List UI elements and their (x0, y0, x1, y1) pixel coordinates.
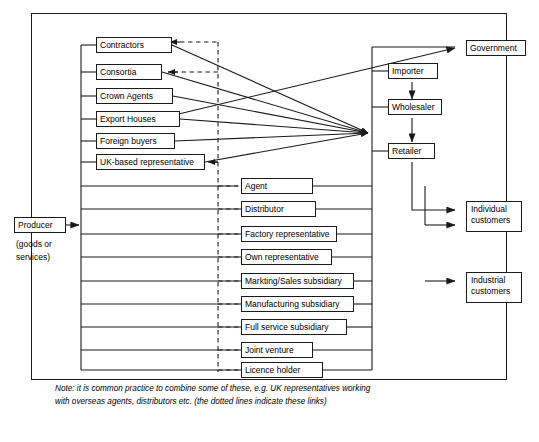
node-joint-venture-label: Joint venture (245, 346, 294, 355)
diagram-page: Producer (goods or services) Contractors… (0, 0, 539, 442)
node-crown-agents-label: Crown Agents (100, 92, 153, 101)
node-marketing-sales-subsidiary[interactable]: Markting/Sales subsidiary (241, 273, 354, 289)
node-individual-customers-line2: customers (471, 215, 517, 226)
node-distributor[interactable]: Distributor (241, 201, 316, 217)
node-joint-venture[interactable]: Joint venture (241, 342, 313, 358)
node-retailer-label: Retailer (392, 147, 421, 156)
node-uk-based-representative-label: UK-based representative (100, 158, 194, 167)
node-manufacturing-subsidiary-label: Manufacturing subsidiary (245, 300, 340, 309)
node-licence-holder-label: Licence holder (245, 366, 300, 375)
node-industrial-customers-line2: customers (471, 286, 517, 297)
node-factory-representative[interactable]: Factory representative (241, 226, 337, 242)
node-factory-representative-label: Factory representative (245, 230, 330, 239)
diagram-note: Note: it is common practice to combine s… (55, 383, 385, 408)
node-wholesaler[interactable]: Wholesaler (388, 99, 442, 115)
node-producer-label: Producer (18, 221, 53, 230)
node-full-service-subsidiary[interactable]: Full service subsidiary (241, 319, 347, 335)
node-retailer[interactable]: Retailer (388, 143, 435, 159)
node-contractors-label: Contractors (100, 41, 144, 50)
node-own-representative[interactable]: Own representative (241, 249, 332, 265)
node-consortia-label: Consortia (100, 68, 136, 77)
node-distributor-label: Distributor (245, 205, 284, 214)
producer-sublabel-line2: services) (16, 252, 50, 262)
node-manufacturing-subsidiary[interactable]: Manufacturing subsidiary (241, 296, 354, 312)
node-foreign-buyers-label: Foreign buyers (100, 137, 157, 146)
node-wholesaler-label: Wholesaler (392, 103, 435, 112)
node-producer[interactable]: Producer (14, 217, 66, 233)
node-uk-based-representative[interactable]: UK-based representative (96, 154, 205, 170)
node-industrial-customers[interactable]: Industrial customers (466, 272, 522, 303)
node-individual-customers[interactable]: Individual customers (466, 201, 522, 232)
node-own-representative-label: Own representative (245, 253, 319, 262)
node-crown-agents[interactable]: Crown Agents (96, 88, 173, 104)
node-industrial-customers-line1: Industrial (471, 275, 517, 286)
node-government-label: Government (470, 44, 517, 53)
node-contractors[interactable]: Contractors (96, 37, 172, 53)
node-importer-label: Importer (392, 67, 424, 76)
node-full-service-subsidiary-label: Full service subsidiary (245, 323, 329, 332)
node-export-houses-label: Export Houses (100, 115, 156, 124)
node-licence-holder[interactable]: Licence holder (241, 362, 323, 378)
node-government[interactable]: Government (466, 40, 526, 56)
producer-sublabel-line1: (goods or (16, 239, 52, 249)
node-individual-customers-line1: Individual (471, 204, 517, 215)
node-export-houses[interactable]: Export Houses (96, 111, 180, 127)
node-importer[interactable]: Importer (388, 63, 438, 79)
node-agent[interactable]: Agent (241, 178, 313, 194)
node-agent-label: Agent (245, 182, 267, 191)
node-foreign-buyers[interactable]: Foreign buyers (96, 133, 175, 149)
node-marketing-sales-subsidiary-label: Markting/Sales subsidiary (245, 277, 342, 286)
node-consortia[interactable]: Consortia (96, 64, 162, 80)
